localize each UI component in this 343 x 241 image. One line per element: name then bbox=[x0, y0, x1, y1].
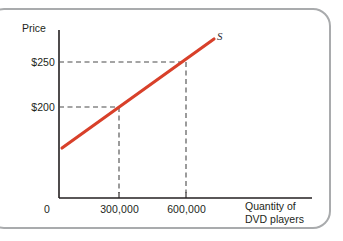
supply-curve bbox=[62, 39, 214, 148]
supply-curve-figure: Price $250 $200 0 300,000 600,000 Quanti… bbox=[0, 0, 343, 241]
x-tick-label-600000: 600,000 bbox=[159, 203, 214, 215]
y-axis-title: Price bbox=[22, 22, 46, 34]
x-axis-title-line1: Quantity of bbox=[245, 200, 296, 212]
x-axis-title: Quantity ofDVD players bbox=[245, 200, 304, 226]
x-tick-label-300000: 300,000 bbox=[92, 203, 147, 215]
y-tick-label-250: $250 bbox=[19, 56, 55, 68]
supply-curve-label: S bbox=[217, 30, 223, 42]
x-tick-label-origin: 0 bbox=[36, 203, 58, 215]
x-axis-title-line2: DVD players bbox=[245, 213, 304, 225]
y-tick-label-200: $200 bbox=[19, 101, 55, 113]
